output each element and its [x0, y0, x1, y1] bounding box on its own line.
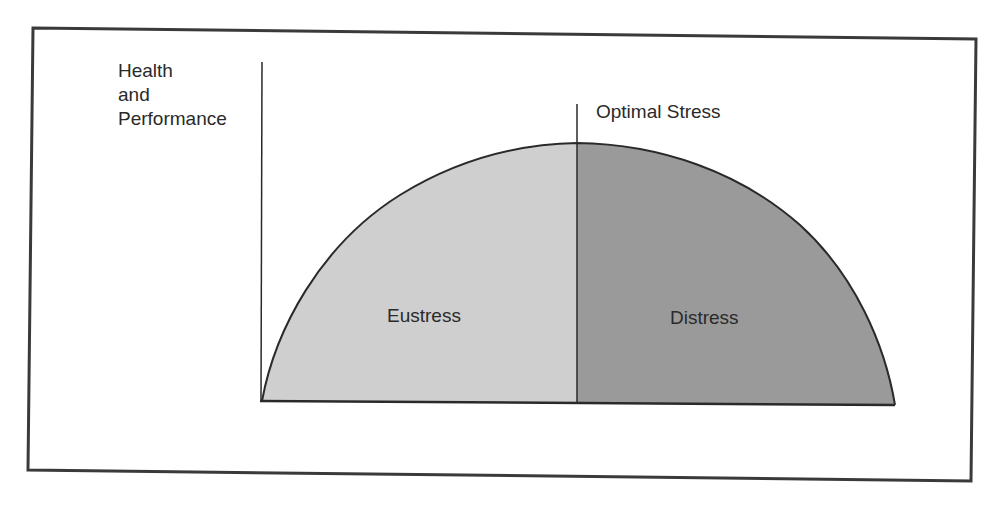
distress-label: Distress [670, 306, 739, 330]
eustress-region [262, 143, 577, 403]
y-axis [261, 62, 262, 402]
y-axis-label-line-2: and [118, 83, 227, 107]
optimal-stress-label: Optimal Stress [596, 100, 721, 124]
y-axis-label: Health and Performance [118, 59, 227, 131]
eustress-label: Eustress [387, 304, 461, 328]
y-axis-label-line-3: Performance [118, 107, 227, 131]
y-axis-label-line-1: Health [118, 59, 227, 83]
